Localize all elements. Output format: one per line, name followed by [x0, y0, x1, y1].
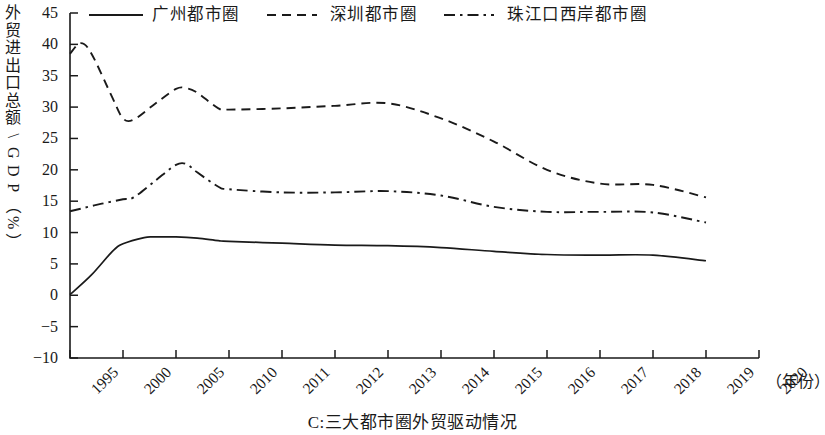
x-tick-label: 2019 [724, 364, 757, 397]
x-tick-label: 2011 [300, 364, 332, 396]
x-axis-tick-labels: 1995200020052010201120122013201420152016… [0, 0, 825, 435]
x-tick-label: 2005 [194, 364, 227, 397]
x-tick-label: 2014 [459, 364, 492, 397]
chart-figure: 广州都市圈深圳都市圈珠江口西岸都市圈 外贸进出口总额\GDP（%） 454035… [0, 0, 825, 435]
x-axis-unit-label: （年份） [766, 368, 825, 392]
x-tick-label: 2015 [512, 364, 545, 397]
x-tick-label: 2018 [671, 364, 704, 397]
x-tick-label: 2000 [141, 364, 174, 397]
x-tick-label: 1995 [88, 364, 121, 397]
x-tick-label: 2010 [247, 364, 280, 397]
x-tick-label: 2017 [618, 364, 651, 397]
x-tick-label: 2016 [565, 364, 598, 397]
x-tick-label: 2012 [353, 364, 386, 397]
chart-caption: C:三大都市圈外贸驱动情况 [0, 408, 825, 433]
x-tick-label: 2013 [406, 364, 439, 397]
